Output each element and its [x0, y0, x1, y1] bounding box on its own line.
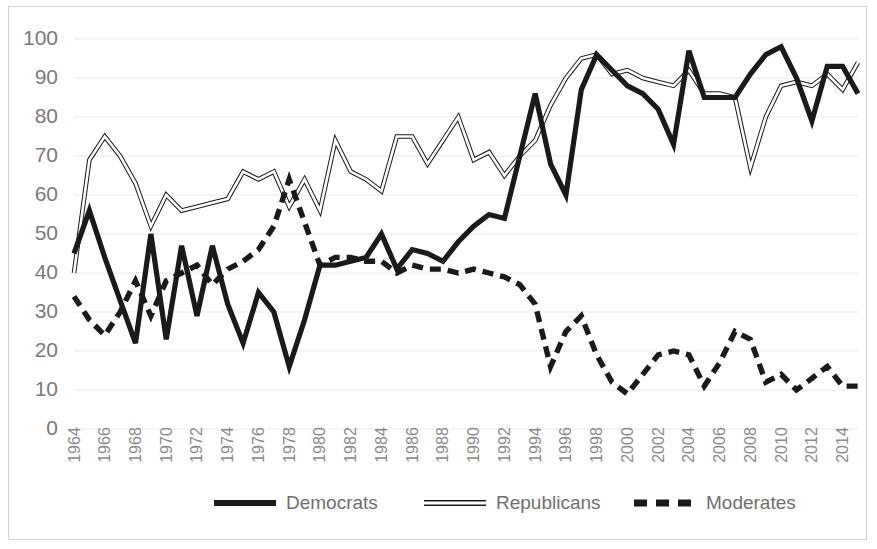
y-axis-tick-label: 40: [35, 260, 58, 283]
legend-label: Moderates: [706, 492, 796, 513]
x-axis-tick-label: 1968: [127, 427, 144, 463]
x-axis-tick-label: 2010: [773, 427, 790, 463]
x-axis-tick-label: 2004: [680, 427, 697, 463]
x-axis-tick-label: 2014: [834, 427, 851, 463]
legend-item[interactable]: Moderates: [634, 492, 796, 513]
x-axis-tick-label: 2002: [650, 427, 667, 463]
x-axis-tick-label: 2006: [711, 427, 728, 463]
x-axis-tick-label: 1998: [588, 427, 605, 463]
x-axis-tick-label: 1982: [342, 427, 359, 463]
y-axis-tick-label: 50: [35, 221, 58, 244]
y-axis-tick-label: 30: [35, 299, 58, 322]
y-axis-tick-label: 70: [35, 143, 58, 166]
x-axis-tick-label: 1986: [404, 427, 421, 463]
x-axis-tick-label: 1994: [527, 427, 544, 463]
y-axis-tick-label: 100: [23, 26, 58, 49]
y-axis-tick-label: 80: [35, 104, 58, 127]
legend-label: Democrats: [286, 492, 378, 513]
x-axis-tick-label: 2008: [742, 427, 759, 463]
x-axis-tick-label: 1970: [158, 427, 175, 463]
x-axis-tick-label: 1966: [96, 427, 113, 463]
x-axis-tick-label: 1964: [66, 427, 83, 463]
y-axis-tick-label: 90: [35, 65, 58, 88]
plot-area: 0102030405060708090100196419661968197019…: [9, 7, 868, 541]
x-axis-tick-label: 1990: [465, 427, 482, 463]
x-axis-tick-label: 1980: [311, 427, 328, 463]
y-axis-tick-label: 0: [46, 416, 58, 439]
x-axis-tick-label: 2012: [803, 427, 820, 463]
x-axis-tick-label: 1996: [557, 427, 574, 463]
y-axis-tick-label: 20: [35, 338, 58, 361]
y-axis-tick-label: 60: [35, 182, 58, 205]
legend-item[interactable]: Republicans: [424, 492, 601, 513]
x-axis-tick-label: 1972: [188, 427, 205, 463]
x-axis-tick-label: 1974: [219, 427, 236, 463]
y-axis-tick-label: 10: [35, 377, 58, 400]
x-axis-tick-label: 1978: [281, 427, 298, 463]
line-chart: 0102030405060708090100196419661968197019…: [9, 7, 868, 541]
x-axis-tick-label: 2000: [619, 427, 636, 463]
x-axis-tick-label: 1988: [434, 427, 451, 463]
x-axis-tick-label: 1984: [373, 427, 390, 463]
x-axis-tick-label: 1976: [250, 427, 267, 463]
legend-label: Republicans: [496, 492, 601, 513]
x-axis-tick-label: 1992: [496, 427, 513, 463]
legend-item[interactable]: Democrats: [214, 492, 378, 513]
chart-container: 0102030405060708090100196419661968197019…: [8, 6, 867, 540]
